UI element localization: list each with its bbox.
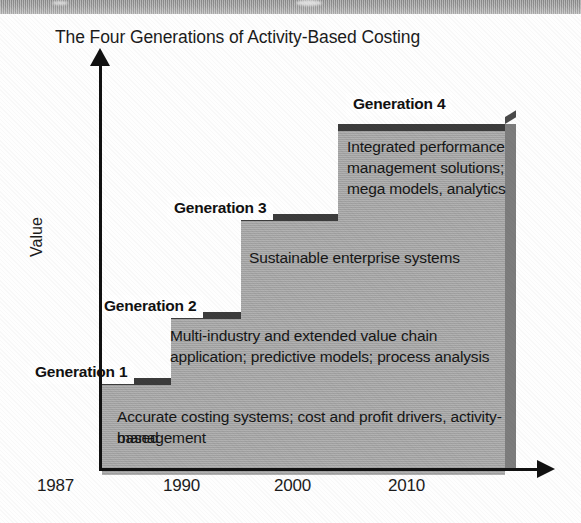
step-4-text-line-2: management solutions;	[347, 157, 522, 178]
step-4-side-top	[505, 110, 516, 124]
generation-3-label: Generation 3	[167, 197, 273, 220]
x-tick-label-1990: 1990	[163, 476, 200, 496]
step-3-text-line-1: Sustainable enterprise systems	[249, 247, 509, 268]
y-axis-line	[99, 62, 102, 471]
x-tick-label-1987: 1987	[37, 476, 74, 496]
x-tick-label-2010: 2010	[388, 476, 425, 496]
generation-4-label: Generation 4	[346, 93, 452, 116]
step-1-text-line-2: management	[117, 427, 517, 448]
generation-1-label: Generation 1	[28, 361, 134, 384]
chart-page: The Four Generations of Activity-Based C…	[0, 0, 581, 523]
plot-area: Accurate costing systems; cost and profi…	[0, 0, 581, 523]
step-4-text-line-1: Integrated performance	[347, 136, 522, 157]
generation-2-label: Generation 2	[97, 295, 203, 318]
y-axis-arrow-icon	[90, 48, 110, 66]
x-axis-line	[99, 468, 539, 471]
x-tick-label-2000: 2000	[274, 476, 311, 496]
step-2-text-line-1: Multi-industry and extended value chain	[170, 325, 510, 346]
step-2-text-line-2: application; predictive models; process …	[170, 346, 510, 367]
y-axis-label: Value	[28, 187, 46, 287]
step-4-text-line-3: mega models, analytics	[347, 178, 522, 199]
x-axis-arrow-icon	[537, 460, 555, 478]
